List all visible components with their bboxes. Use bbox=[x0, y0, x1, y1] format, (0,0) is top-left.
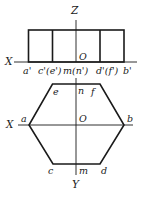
vertex-label-n: n bbox=[78, 85, 84, 96]
front-origin-label: O bbox=[79, 51, 87, 62]
vertex-label-c: c bbox=[48, 165, 54, 176]
top-view: X Y O a b e n f c m d bbox=[5, 78, 133, 190]
y-axis-label: Y bbox=[72, 178, 80, 190]
label-a-prime: a' bbox=[23, 65, 31, 76]
vertex-label-b: b bbox=[127, 113, 133, 124]
vertex-label-f: f bbox=[90, 86, 96, 97]
projection-diagram: Z X O a' c'(e') m(n') d'(f') b' X Y O a … bbox=[0, 0, 143, 197]
front-x-axis-label: X bbox=[4, 55, 13, 67]
vertex-label-m: m bbox=[79, 165, 88, 176]
vertex-label-e: e bbox=[53, 86, 59, 97]
top-origin-label: O bbox=[79, 113, 87, 124]
label-c-prime-e-prime: c'(e') bbox=[38, 65, 62, 76]
label-d-prime-f-prime: d'(f') bbox=[96, 65, 119, 76]
top-x-axis-label: X bbox=[5, 118, 14, 130]
z-axis-label: Z bbox=[70, 4, 79, 16]
label-b-prime: b' bbox=[123, 65, 132, 76]
vertex-label-d: d bbox=[101, 165, 107, 176]
label-m-n-prime: m(n') bbox=[63, 65, 88, 76]
front-view: Z X O a' c'(e') m(n') d'(f') b' bbox=[4, 4, 137, 76]
vertex-label-a: a bbox=[21, 113, 27, 124]
hexagon bbox=[29, 84, 124, 164]
